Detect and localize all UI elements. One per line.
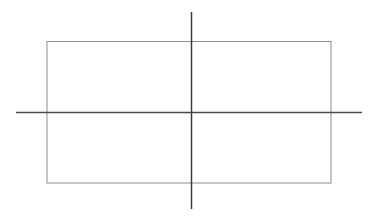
figure-svg [0, 0, 379, 219]
canvas-background [0, 0, 379, 219]
drawing-canvas [0, 0, 379, 219]
